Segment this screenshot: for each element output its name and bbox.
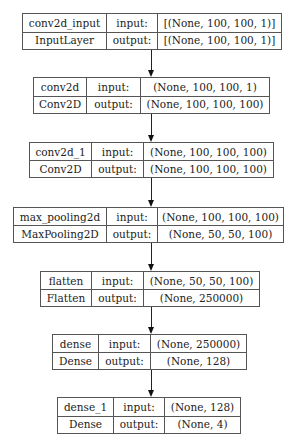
arrowhead-icon bbox=[148, 135, 154, 142]
input-shape: (None, 250000) bbox=[151, 335, 246, 352]
output-shape: (None, 100, 100, 100) bbox=[144, 160, 273, 177]
layer-name: conv2d_input bbox=[23, 14, 107, 32]
edge-line bbox=[151, 370, 152, 391]
input-label: input: bbox=[107, 14, 158, 32]
output-label: output: bbox=[92, 289, 144, 306]
input-label: input: bbox=[87, 78, 141, 96]
layer-type: Dense bbox=[58, 416, 114, 434]
output-shape: (None, 4) bbox=[165, 416, 240, 434]
input-label: input: bbox=[92, 143, 144, 160]
output-label: output: bbox=[107, 32, 158, 50]
edge-line bbox=[151, 50, 152, 71]
input-shape: (None, 128) bbox=[165, 398, 240, 416]
output-label: output: bbox=[87, 96, 141, 114]
layer-name: max_pooling2d bbox=[14, 208, 107, 225]
edge-line bbox=[151, 114, 152, 136]
layer-node-conv2d: conv2d input: (None, 100, 100, 1) Conv2D… bbox=[33, 77, 270, 114]
arrowhead-icon bbox=[148, 200, 154, 207]
input-label: input: bbox=[99, 335, 151, 352]
layer-node-flatten: flatten input: (None, 50, 50, 100) Flatt… bbox=[40, 271, 260, 307]
input-shape: [(None, 100, 100, 1)] bbox=[158, 14, 281, 32]
layer-node-dense-1: dense_1 input: (None, 128) Dense output:… bbox=[57, 397, 241, 434]
output-shape: (None, 250000) bbox=[144, 289, 259, 306]
layer-type: Conv2D bbox=[30, 160, 92, 177]
layer-type: Conv2D bbox=[34, 96, 87, 114]
input-label: input: bbox=[114, 398, 165, 416]
input-label: input: bbox=[92, 272, 144, 289]
arrowhead-icon bbox=[148, 327, 154, 334]
output-label: output: bbox=[92, 160, 144, 177]
layer-name: conv2d_1 bbox=[30, 143, 92, 160]
layer-type: InputLayer bbox=[23, 32, 107, 50]
layer-name: dense_1 bbox=[58, 398, 114, 416]
input-shape: (None, 100, 100, 100) bbox=[158, 208, 283, 225]
input-shape: (None, 100, 100, 1) bbox=[141, 78, 269, 96]
layer-type: MaxPooling2D bbox=[14, 225, 107, 242]
output-label: output: bbox=[114, 416, 165, 434]
layer-node-dense: dense input: (None, 250000) Dense output… bbox=[52, 334, 247, 370]
arrowhead-icon bbox=[148, 264, 154, 271]
layer-node-max-pooling2d: max_pooling2d input: (None, 100, 100, 10… bbox=[13, 207, 284, 243]
output-shape: (None, 50, 50, 100) bbox=[158, 225, 283, 242]
output-label: output: bbox=[107, 225, 158, 242]
layer-name: conv2d bbox=[34, 78, 87, 96]
input-shape: (None, 100, 100, 100) bbox=[144, 143, 273, 160]
arrowhead-icon bbox=[148, 390, 154, 397]
layer-type: Flatten bbox=[41, 289, 92, 306]
input-label: input: bbox=[107, 208, 158, 225]
layer-type: Dense bbox=[53, 352, 99, 369]
input-shape: (None, 50, 50, 100) bbox=[144, 272, 259, 289]
edge-line bbox=[151, 307, 152, 328]
layer-name: flatten bbox=[41, 272, 92, 289]
layer-node-conv2d-1: conv2d_1 input: (None, 100, 100, 100) Co… bbox=[29, 142, 274, 178]
arrowhead-icon bbox=[148, 70, 154, 77]
layer-node-conv2d-input: conv2d_input input: [(None, 100, 100, 1)… bbox=[22, 13, 282, 50]
edge-line bbox=[151, 178, 152, 201]
edge-line bbox=[151, 243, 152, 265]
layer-name: dense bbox=[53, 335, 99, 352]
output-shape: (None, 128) bbox=[151, 352, 246, 369]
output-label: output: bbox=[99, 352, 151, 369]
output-shape: [(None, 100, 100, 1)] bbox=[158, 32, 281, 50]
output-shape: (None, 100, 100, 100) bbox=[141, 96, 269, 114]
